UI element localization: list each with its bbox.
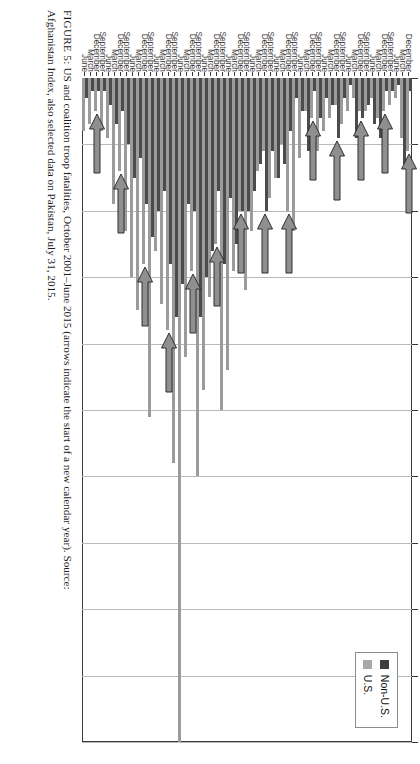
- bar-us: [383, 78, 385, 111]
- axis-tick-100: [412, 742, 418, 743]
- bar-us: [89, 78, 91, 124]
- bar-nonus: [187, 78, 189, 204]
- bar-us: [227, 78, 229, 370]
- legend-item: Non-U.S.: [379, 660, 391, 718]
- bar-nonus: [343, 78, 345, 98]
- bar-nonus: [337, 78, 339, 138]
- bar-us: [167, 78, 169, 330]
- bar-us: [389, 78, 391, 105]
- bar-nonus: [241, 78, 243, 211]
- bar-us: [155, 78, 157, 251]
- category-tick: [300, 72, 301, 76]
- bar-nonus: [193, 78, 195, 211]
- bars-area: [82, 78, 412, 742]
- bar-nonus: [301, 78, 303, 111]
- bar-us: [359, 78, 361, 111]
- bar-us: [125, 78, 127, 231]
- category-tick: [102, 72, 103, 76]
- bar-nonus: [379, 78, 381, 138]
- category-tick: [216, 72, 217, 76]
- bar-us: [149, 78, 151, 417]
- figure-caption: FIGURE 5: US and coalition troop fatalit…: [44, 10, 75, 754]
- bar-us: [251, 78, 253, 231]
- bar-nonus: [103, 78, 105, 91]
- bar-nonus: [361, 78, 363, 118]
- category-tick: [348, 72, 349, 76]
- category-tick: [204, 72, 205, 76]
- category-tick: [240, 72, 241, 76]
- bar-us: [275, 78, 277, 178]
- gridline-30: [82, 277, 412, 278]
- bar-nonus: [157, 78, 159, 211]
- bar-us: [293, 78, 295, 231]
- category-tick: [258, 72, 259, 76]
- category-tick: [246, 72, 247, 76]
- bar-us: [113, 78, 115, 204]
- bar-nonus: [217, 78, 219, 191]
- year-start-arrow-icon: [159, 332, 179, 394]
- bar-us: [101, 78, 103, 131]
- category-tick: [276, 72, 277, 76]
- category-tick: [144, 72, 145, 76]
- bar-nonus: [391, 78, 393, 91]
- category-tick: [198, 72, 199, 76]
- bar-nonus: [409, 78, 411, 91]
- bar-us: [191, 78, 193, 271]
- category-tick: [210, 72, 211, 76]
- category-tick: [318, 72, 319, 76]
- axis-tick-30: [412, 277, 418, 278]
- legend-label-nonus: Non-U.S.: [379, 675, 391, 718]
- bar-nonus: [355, 78, 357, 138]
- bar-us: [305, 78, 307, 111]
- bar-nonus: [247, 78, 249, 211]
- category-tick: [252, 72, 253, 76]
- bar-us: [179, 78, 181, 742]
- bar-us: [215, 78, 217, 244]
- bar-us: [209, 78, 211, 297]
- axis-tick-90: [412, 676, 418, 677]
- category-tick: [288, 72, 289, 76]
- chart-legend: Non-U.S.U.S.: [355, 652, 398, 728]
- bar-us: [137, 78, 139, 310]
- bar-us: [329, 78, 331, 118]
- bar-nonus: [403, 78, 405, 164]
- category-tick: [312, 72, 313, 76]
- bar-us: [131, 78, 133, 277]
- axis-tick-0: [412, 78, 418, 79]
- bar-us: [245, 78, 247, 290]
- bar-nonus: [145, 78, 147, 204]
- bar-nonus: [163, 78, 165, 191]
- category-tick: [372, 72, 373, 76]
- bar-us: [119, 78, 121, 171]
- category-tick: [396, 72, 397, 76]
- bar-us: [233, 78, 235, 271]
- category-tick: [222, 72, 223, 76]
- bar-us: [107, 78, 109, 138]
- bar-us: [395, 78, 397, 98]
- bar-nonus: [367, 78, 369, 105]
- bar-nonus: [133, 78, 135, 178]
- category-tick: [132, 72, 133, 76]
- category-tick: [90, 72, 91, 76]
- category-tick: [174, 72, 175, 76]
- axis-tick-70: [412, 543, 418, 544]
- year-start-arrow-icon: [399, 153, 419, 215]
- bar-nonus: [199, 78, 201, 317]
- bar-nonus: [277, 78, 279, 178]
- category-tick: [234, 72, 235, 76]
- bar-us: [221, 78, 223, 410]
- category-tick: [108, 72, 109, 76]
- bar-us: [203, 78, 205, 390]
- category-tick: [228, 72, 229, 76]
- category-tick: [162, 72, 163, 76]
- plot-area: Non-U.S.U.S.: [82, 78, 412, 742]
- bar-us: [173, 78, 175, 463]
- bar-us: [371, 78, 373, 98]
- gridline-80: [82, 609, 412, 610]
- bar-us: [299, 78, 301, 158]
- category-tick: [126, 72, 127, 76]
- category-tick: [390, 72, 391, 76]
- category-tick: [168, 72, 169, 76]
- year-start-arrow-icon: [351, 120, 371, 182]
- category-tick: [360, 72, 361, 76]
